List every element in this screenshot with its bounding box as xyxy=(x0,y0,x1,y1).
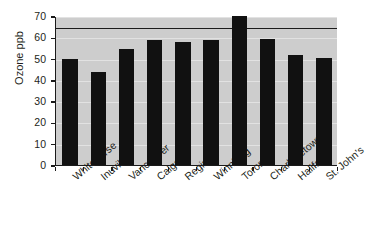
bar xyxy=(119,49,134,165)
y-tick-mark xyxy=(51,59,55,60)
y-tick-label: 70 xyxy=(20,10,46,22)
y-tick-label: 20 xyxy=(20,116,46,128)
y-tick-label: 0 xyxy=(20,159,46,171)
y-tick-mark xyxy=(51,80,55,81)
y-tick-label: 40 xyxy=(20,74,46,86)
reference-line xyxy=(56,28,337,30)
bar xyxy=(260,39,275,165)
bar xyxy=(288,55,303,165)
y-tick-mark xyxy=(51,16,55,17)
bar xyxy=(91,72,106,165)
bar xyxy=(203,40,218,165)
y-tick-label: 60 xyxy=(20,31,46,43)
bar xyxy=(316,58,331,165)
y-tick-label: 50 xyxy=(20,53,46,65)
y-tick-mark xyxy=(51,144,55,145)
y-tick-label: 30 xyxy=(20,95,46,107)
y-tick-mark xyxy=(51,101,55,102)
bar xyxy=(175,42,190,165)
y-tick-mark xyxy=(51,123,55,124)
y-tick-mark xyxy=(51,38,55,39)
bar xyxy=(232,16,247,165)
x-tick-mark xyxy=(55,167,56,171)
y-tick-label: 10 xyxy=(20,138,46,150)
bar xyxy=(62,59,77,165)
bar xyxy=(147,40,162,165)
